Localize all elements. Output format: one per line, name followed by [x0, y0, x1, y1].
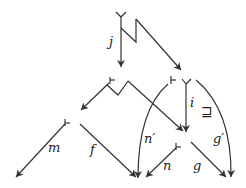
- label-f: f: [89, 142, 97, 157]
- top-zigzag: [121, 19, 136, 42]
- arrow-middle-left-to-bottom-left: [81, 83, 109, 110]
- middle-left-node-marker: [110, 77, 115, 84]
- middle-right-node-marker-left: [171, 76, 176, 84]
- label-i: i: [190, 95, 194, 110]
- middle-right-node-marker-right: [182, 79, 191, 84]
- label-j: j: [106, 34, 113, 49]
- top-node-marker: [116, 12, 126, 17]
- label-sqsupseteq: ⊒: [201, 103, 213, 119]
- arrow-top-to-middle-right: [136, 19, 181, 70]
- arrow-f: [80, 124, 136, 177]
- arrow-middle-left-to-bottom-right: [128, 81, 183, 131]
- arrow-n: [146, 148, 176, 177]
- diagram-canvas: j i ⊒ n′ g′ m f n g: [0, 0, 246, 188]
- label-m: m: [48, 140, 60, 155]
- bottom-left-node-marker: [65, 119, 70, 126]
- bottom-right-node-marker: [176, 143, 181, 150]
- label-n-prime: n′: [144, 131, 155, 146]
- label-g-prime: g′: [213, 131, 224, 146]
- label-n: n: [163, 158, 171, 173]
- label-g: g: [193, 158, 201, 173]
